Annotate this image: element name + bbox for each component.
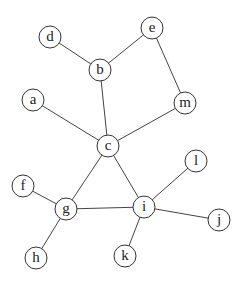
node-h: h (25, 247, 47, 269)
node-c: c (97, 135, 119, 157)
node-label: i (142, 198, 146, 214)
node-label: a (30, 91, 37, 107)
nodes: abcdefghijklm (12, 17, 230, 269)
node-label: f (21, 177, 26, 193)
edge-a-c (33, 100, 108, 146)
graph-diagram: abcdefghijklm (0, 0, 245, 286)
node-label: c (105, 137, 112, 153)
edge-m-c (108, 103, 185, 146)
node-label: k (121, 247, 129, 263)
edge-g-i (66, 207, 144, 209)
edges (23, 28, 219, 258)
node-label: d (46, 28, 54, 44)
node-m: m (174, 92, 196, 114)
edge-e-m (152, 28, 185, 103)
node-label: l (194, 152, 198, 168)
node-label: j (216, 211, 221, 227)
node-label: g (62, 200, 70, 216)
node-label: h (32, 249, 40, 265)
node-i: i (133, 196, 155, 218)
node-k: k (114, 245, 136, 267)
node-g: g (55, 198, 77, 220)
node-f: f (12, 175, 34, 197)
node-label: b (96, 61, 104, 77)
node-label: m (179, 94, 191, 110)
node-b: b (89, 59, 111, 81)
node-l: l (185, 150, 207, 172)
node-e: e (141, 17, 163, 39)
node-a: a (22, 89, 44, 111)
node-label: e (149, 19, 156, 35)
node-j: j (208, 209, 230, 231)
node-d: d (39, 26, 61, 48)
